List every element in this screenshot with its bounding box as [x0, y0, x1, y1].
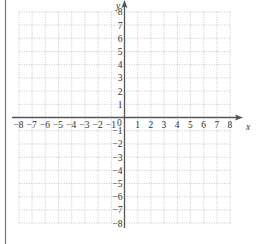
x-tick-label: 8 [228, 120, 233, 130]
x-tick-label: 2 [148, 120, 153, 130]
x-tick-label: −6 [40, 120, 50, 130]
y-tick-label: −3 [112, 153, 122, 163]
y-tick-label: 3 [118, 73, 123, 83]
x-tick-label: 5 [188, 120, 193, 130]
x-tick-label: −8 [13, 120, 23, 130]
x-tick-label: 4 [175, 120, 180, 130]
x-tick-label: −4 [66, 120, 76, 130]
x-tick-label: 7 [214, 120, 219, 130]
y-tick-label: −4 [112, 166, 122, 176]
y-tick-label: −2 [112, 139, 122, 149]
y-tick-label: 4 [118, 60, 123, 70]
y-axis-label: y [115, 1, 121, 11]
y-tick-label: 1 [118, 100, 123, 110]
x-tick-label: −3 [79, 120, 89, 130]
y-tick-label: 6 [118, 34, 123, 44]
x-tick-label: −2 [93, 120, 103, 130]
x-tick-labels: −8−7−6−5−4−3−2−112345678 [13, 120, 232, 130]
y-tick-label: 5 [118, 47, 123, 57]
y-tick-label: −6 [112, 192, 122, 202]
origin-label: 0 [117, 118, 122, 128]
y-tick-label: −7 [112, 205, 122, 215]
coordinate-plane: −8−7−6−5−4−3−2−112345678 87654321−1−2−3−… [0, 0, 259, 244]
y-tick-label: 7 [118, 21, 123, 31]
x-tick-label: 6 [201, 120, 206, 130]
y-tick-label: 2 [118, 87, 123, 97]
y-tick-label: −5 [112, 179, 122, 189]
x-tick-label: 3 [162, 120, 167, 130]
x-tick-label: 1 [135, 120, 140, 130]
x-axis-label: x [245, 122, 251, 132]
x-tick-label: −7 [27, 120, 37, 130]
axes [12, 0, 243, 228]
x-tick-label: −5 [53, 120, 63, 130]
y-tick-label: −8 [112, 219, 122, 229]
